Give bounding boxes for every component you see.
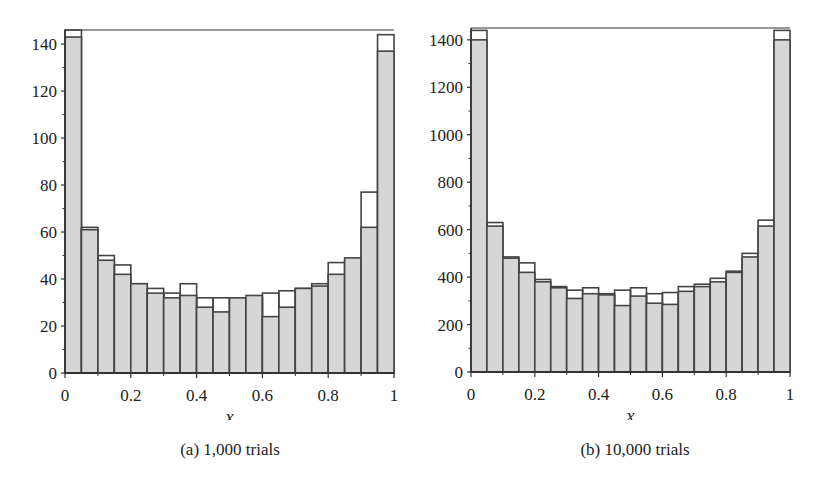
caption-a: (a) 1,000 trials	[80, 440, 380, 460]
observed-bar	[65, 37, 81, 373]
histogram-bin	[726, 271, 742, 372]
y-tick-label: 1000	[429, 126, 463, 145]
observed-bar	[345, 258, 361, 373]
observed-bar	[230, 298, 246, 373]
observed-bar	[312, 286, 328, 373]
histogram-bin	[487, 223, 503, 372]
histogram-1000-trials: 02040608010012014000.20.40.60.81x	[0, 0, 410, 420]
observed-bar	[98, 260, 114, 373]
observed-bar	[535, 282, 551, 372]
y-tick-label: 140	[32, 35, 58, 54]
observed-bar	[631, 296, 647, 372]
caption-b: (b) 10,000 trials	[485, 440, 785, 460]
observed-bar	[378, 51, 394, 373]
observed-bar	[328, 274, 344, 373]
histogram-bin	[230, 298, 246, 373]
observed-bar	[551, 288, 567, 372]
histogram-bin	[503, 257, 519, 372]
observed-bar	[726, 272, 742, 372]
observed-bar	[567, 298, 583, 372]
observed-bar	[694, 287, 710, 372]
histogram-bin	[312, 284, 328, 373]
chart-panel-a: 02040608010012014000.20.40.60.81x (a) 1,…	[0, 0, 410, 489]
histogram-bin	[710, 278, 726, 372]
histogram-bin	[197, 298, 213, 373]
observed-bar	[246, 295, 262, 373]
chart-panel-b: 020040060080010001200140000.20.40.60.81x…	[405, 0, 815, 489]
observed-bar	[213, 312, 229, 373]
histogram-bin	[345, 258, 361, 373]
histogram-bin	[147, 288, 163, 373]
histogram-bin	[361, 192, 377, 373]
histogram-bin	[583, 288, 599, 372]
observed-bar	[295, 288, 311, 373]
histogram-bin	[65, 30, 81, 373]
y-tick-label: 600	[438, 221, 464, 240]
histogram-bin	[180, 284, 196, 373]
x-tick-label: 0.4	[588, 385, 610, 404]
observed-bar	[487, 226, 503, 372]
y-tick-label: 1200	[429, 78, 463, 97]
x-tick-label: 0.4	[186, 386, 208, 405]
histogram-bin	[114, 265, 130, 373]
x-axis-label: x	[225, 407, 234, 420]
observed-bar	[774, 40, 790, 372]
x-tick-label: 1	[786, 385, 795, 404]
x-tick-label: 0	[61, 386, 70, 405]
histogram-bin	[551, 287, 567, 372]
y-tick-label: 800	[438, 173, 464, 192]
observed-bar	[503, 258, 519, 372]
observed-bar	[180, 295, 196, 373]
observed-bar	[646, 303, 662, 372]
y-tick-label: 1400	[429, 31, 463, 50]
observed-bar	[678, 291, 694, 372]
histogram-bin	[758, 220, 774, 372]
y-tick-label: 80	[40, 176, 57, 195]
x-tick-label: 0.8	[318, 386, 339, 405]
y-tick-label: 100	[32, 129, 58, 148]
histogram-bin	[535, 279, 551, 372]
x-tick-label: 1	[390, 386, 399, 405]
histogram-bin	[615, 290, 631, 372]
histogram-bin	[678, 287, 694, 372]
observed-bar	[615, 306, 631, 372]
x-tick-label: 0.2	[120, 386, 141, 405]
histogram-bin	[774, 30, 790, 372]
histogram-10000-trials: 020040060080010001200140000.20.40.60.81x	[405, 0, 815, 420]
observed-bar	[131, 284, 147, 373]
y-tick-label: 200	[438, 316, 464, 335]
observed-bar	[662, 304, 678, 372]
histogram-bin	[742, 253, 758, 372]
histogram-bin	[246, 295, 262, 373]
histogram-bin	[328, 263, 344, 373]
observed-bar	[758, 226, 774, 372]
observed-bar	[599, 295, 615, 372]
histogram-bin	[213, 298, 229, 373]
histogram-bin	[131, 284, 147, 373]
histogram-bin	[631, 288, 647, 372]
observed-bar	[519, 272, 535, 372]
histogram-bin	[471, 30, 487, 372]
observed-bar	[742, 257, 758, 372]
x-tick-label: 0.8	[716, 385, 737, 404]
histogram-bin	[81, 227, 97, 373]
y-tick-label: 0	[455, 363, 464, 382]
x-tick-label: 0.6	[252, 386, 273, 405]
observed-bar	[81, 230, 97, 373]
observed-bar	[710, 282, 726, 372]
observed-bar	[197, 307, 213, 373]
histogram-bin	[662, 293, 678, 372]
histogram-bin	[519, 263, 535, 372]
y-tick-label: 400	[438, 268, 464, 287]
histogram-bin	[599, 294, 615, 372]
histogram-bin	[646, 294, 662, 372]
observed-bar	[262, 317, 278, 373]
x-tick-label: 0.6	[652, 385, 673, 404]
histogram-bin	[378, 35, 394, 373]
histogram-bin	[694, 284, 710, 372]
y-tick-label: 20	[40, 317, 57, 336]
histogram-bin	[164, 293, 180, 373]
observed-bar	[361, 227, 377, 373]
x-tick-label: 0	[467, 385, 476, 404]
histogram-bin	[295, 288, 311, 373]
